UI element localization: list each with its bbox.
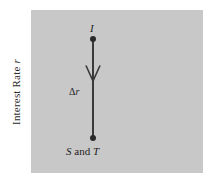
y-axis-label-text: Interest Rate <box>10 64 22 125</box>
y-axis-label-container: Interest Rate r <box>0 0 30 186</box>
point-marker-bottom <box>90 135 96 141</box>
point-marker-top <box>90 36 96 42</box>
label-bottom-t: T <box>93 145 99 157</box>
plot-panel: I Δr S and T <box>31 10 203 173</box>
delta-variable: r <box>75 86 79 97</box>
arrow-head-icon <box>85 65 101 83</box>
label-bottom-point: S and T <box>66 145 99 157</box>
figure-root: Interest Rate r I Δr S and T <box>0 0 212 186</box>
arrow-shaft <box>92 39 94 139</box>
label-bottom-conjunction: and <box>72 145 93 157</box>
y-axis-label: Interest Rate r <box>10 32 22 152</box>
label-top-point: I <box>90 22 94 34</box>
y-axis-label-variable: r <box>10 59 22 63</box>
label-delta-r: Δr <box>69 86 79 97</box>
